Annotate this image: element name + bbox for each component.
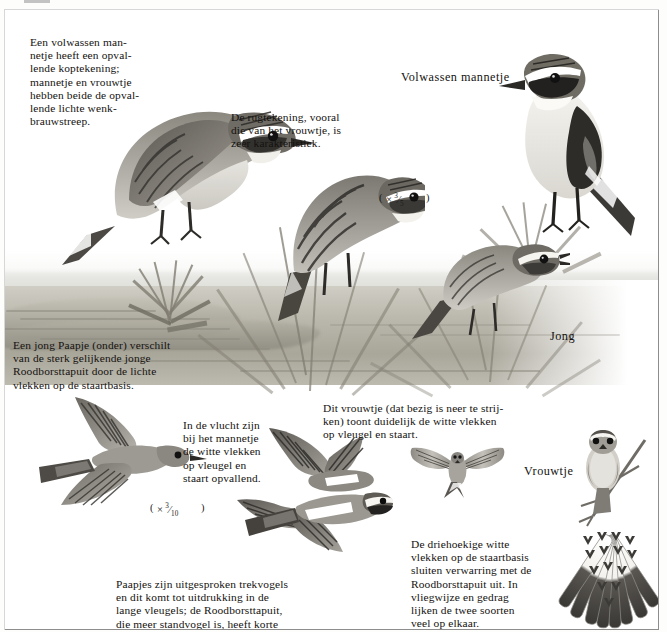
juvenile-in-flight-left bbox=[33, 395, 208, 520]
page-trim-mark bbox=[24, 0, 50, 3]
juvenile-perched-right bbox=[410, 235, 570, 360]
scale-numerator-upper: 3 bbox=[394, 192, 398, 200]
label-juvenile: Jong bbox=[550, 329, 575, 344]
scale-denominator-lower: 10 bbox=[171, 510, 179, 518]
scale-symbol-upper: × bbox=[386, 194, 392, 205]
scale-marker-upper: ×3⁄5 bbox=[386, 192, 404, 208]
plate-page: Een volwassen man- netje heeft een opval… bbox=[0, 0, 667, 632]
caption-juvenile-vs-stonechat: Een jong Paapje (onder) verschilt van de… bbox=[13, 339, 243, 392]
female-landing-small bbox=[410, 442, 505, 502]
scale-paren-close-upper: ) bbox=[426, 192, 430, 203]
plate-frame: Een volwassen man- netje heeft een opval… bbox=[4, 9, 659, 630]
caption-head-pattern: Een volwassen man- netje heeft een opval… bbox=[30, 36, 200, 128]
caption-back-pattern: De rugtekening, vooral die van het vrouw… bbox=[231, 111, 406, 151]
caption-female-landing: Dit vrouwtje (dat bezig is neer te strij… bbox=[323, 402, 553, 442]
bird-singing-center bbox=[250, 145, 425, 325]
label-adult-male: Volwassen mannetje bbox=[401, 70, 510, 85]
scale-paren-close-lower: ) bbox=[201, 502, 205, 513]
scale-paren-open-lower: ( bbox=[150, 502, 154, 513]
scale-symbol-lower: × bbox=[157, 504, 163, 515]
caption-tail-base-spots: De driehoekige witte vlekken op de staar… bbox=[411, 538, 566, 630]
label-female: Vrouwtje bbox=[524, 464, 573, 479]
caption-migration-wings: Paapjes zijn uitgesproken trekvogels en … bbox=[116, 578, 366, 630]
spread-tail-detail bbox=[553, 522, 659, 630]
scale-numerator-lower: 3 bbox=[165, 502, 169, 510]
caption-male-in-flight: In de vlucht zijn bij het mannetje de wi… bbox=[183, 419, 323, 485]
scale-paren-open-upper: ( bbox=[379, 192, 383, 203]
scale-marker-lower: ×3⁄10 bbox=[157, 502, 178, 518]
scale-denominator-upper: 5 bbox=[400, 200, 404, 208]
